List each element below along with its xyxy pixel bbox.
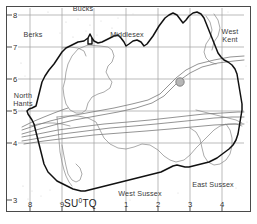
ytick-label-3: 3 [13,196,17,205]
xtick-label-4: 4 [214,200,230,209]
xtick-label-2: 2 [150,200,166,209]
ridge-greensand-2 [22,117,244,141]
site-marker-dot[interactable] [176,78,184,86]
district-line-east-lobe [190,124,232,165]
ridge-north-downs-1 [22,56,244,130]
ytick-label-6: 6 [13,75,17,84]
grid-origin-label: SU0TQ [64,197,97,209]
ytick-label-8: 8 [13,11,17,20]
site-marker[interactable] [176,78,184,86]
district-line-south [57,116,242,162]
label-west-kent: West Kent [203,28,257,44]
district-line-south-lower [57,117,72,186]
map-figure: Bucks Berks Middlesex West Kent North Ha… [0,0,257,224]
label-berks: Berks [0,31,66,39]
label-east-sussex: East Sussex [175,181,251,189]
grid-square-su: SU [64,198,79,209]
xtick-label-3: 3 [182,200,198,209]
surrey-outline-nw-notch [88,38,92,44]
ridge-lines [22,56,244,144]
label-bucks: Bucks [0,5,166,13]
ytick-label-4: 4 [13,139,17,148]
label-middlesex: Middlesex [94,31,160,39]
ytick-label-7: 7 [13,43,17,52]
grid-square-tq: TQ [82,198,97,209]
ridge-weald-edge [24,124,244,144]
label-west-sussex: West Sussex [101,190,179,198]
xtick-label-8: 8 [22,200,38,209]
ytick-label-5: 5 [13,107,17,116]
district-line-bottom-centre [62,145,82,182]
xtick-label-1: 1 [118,200,134,209]
label-north-hants: North Hants [2,92,44,108]
